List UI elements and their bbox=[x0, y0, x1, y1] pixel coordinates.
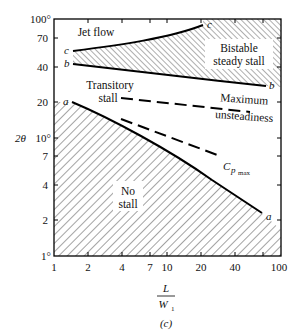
curve-c-label-start: c bbox=[64, 44, 69, 56]
transitory-label-line2: stall bbox=[98, 92, 117, 104]
figure-caption: (c) bbox=[160, 317, 173, 330]
x-tick-label: 10 bbox=[162, 261, 174, 273]
curve-a-label-end: a bbox=[266, 210, 272, 222]
y-tick-label: 70 bbox=[37, 32, 49, 44]
y-tick-label: 4 bbox=[43, 179, 49, 191]
x-axis-label-denominator: W bbox=[158, 298, 168, 310]
cp-max-label-subsub: max bbox=[238, 169, 251, 177]
y-tick-label: 7 bbox=[43, 150, 49, 162]
no-stall-label-line2: stall bbox=[118, 198, 137, 210]
curve-a-label-start: a bbox=[63, 95, 69, 107]
max-unsteadiness-label-line2: unsteadiness bbox=[215, 108, 274, 124]
curve-b-label-end: b bbox=[269, 79, 275, 91]
x-tick-label: 1 bbox=[51, 261, 57, 273]
cp-max-label: C bbox=[223, 160, 231, 172]
no-stall-label-line1: No bbox=[121, 185, 135, 197]
x-tick-label: 7 bbox=[147, 261, 153, 273]
max-unsteadiness-label-line1: Maximum bbox=[220, 91, 269, 106]
no-stall-region bbox=[54, 102, 281, 256]
x-tick-label: 4 bbox=[119, 261, 125, 273]
curve-c-label-end: c bbox=[207, 18, 212, 30]
bistable-label-line2: steady stall bbox=[213, 55, 264, 68]
x-tick-label: 100 bbox=[271, 261, 288, 273]
jet-flow-label: Jet flow bbox=[78, 26, 115, 38]
x-tick-label: 2 bbox=[85, 261, 91, 273]
x-axis-label-subscript: 1 bbox=[171, 305, 175, 313]
x-tick-label: 40 bbox=[230, 261, 242, 273]
x-tick-label: 20 bbox=[196, 261, 208, 273]
bistable-label-line1: Bistable bbox=[220, 42, 258, 54]
x-axis-label-numerator: L bbox=[162, 282, 169, 294]
curve-b-label-start: b bbox=[64, 57, 70, 69]
y-tick-label: 20 bbox=[37, 96, 49, 108]
y-tick-label: 10° bbox=[36, 132, 51, 144]
y-tick-label: 100° bbox=[30, 13, 51, 25]
y-tick-label: 40 bbox=[37, 61, 49, 73]
stall-regime-chart: 1° 2 4 7 10° 20 40 70 100° 1 2 4 7 10 20… bbox=[0, 0, 301, 331]
y-tick-label: 1° bbox=[41, 250, 51, 262]
transitory-label-line1: Transitory bbox=[86, 79, 134, 92]
cp-max-label-sub: p bbox=[230, 165, 236, 175]
y-axis-label: 2θ bbox=[15, 132, 27, 144]
y-tick-label: 2 bbox=[43, 214, 49, 226]
